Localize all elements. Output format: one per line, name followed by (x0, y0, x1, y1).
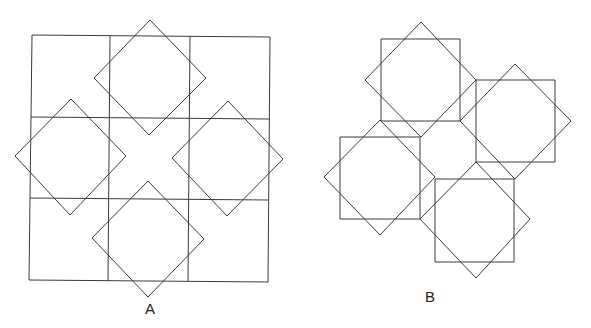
figure-label: B (425, 288, 435, 305)
figure-label: A (145, 300, 155, 317)
grid-vertical-line (188, 36, 190, 281)
grid-horizontal-line (31, 117, 269, 119)
grid-outline (29, 35, 270, 282)
figure-a: A (15, 20, 283, 317)
grid-horizontal-line (30, 198, 268, 200)
figure-b: B (324, 22, 571, 305)
grid-vertical-line (108, 36, 110, 281)
diagram-canvas: AB (0, 0, 591, 328)
